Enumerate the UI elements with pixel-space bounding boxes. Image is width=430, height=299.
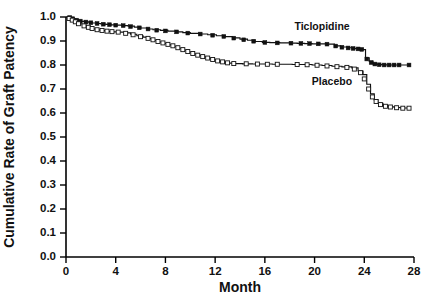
y-tick-label: 1.0 [40, 10, 56, 22]
censor-mark-filled [232, 36, 236, 40]
y-tick-label: 0.2 [40, 202, 56, 214]
censor-mark-filled [129, 25, 133, 29]
censor-mark-filled [89, 21, 93, 25]
censor-mark-open [383, 104, 387, 108]
censor-mark-open [166, 42, 170, 46]
censor-mark-open [110, 30, 114, 34]
censor-mark-filled [377, 63, 381, 67]
censor-mark-filled [222, 35, 226, 39]
censor-mark-filled [373, 62, 377, 66]
censor-mark-filled [101, 22, 105, 26]
censor-mark-open [395, 106, 399, 110]
x-tick-label: 4 [113, 265, 120, 277]
censor-mark-open [161, 41, 165, 45]
y-tick-label: 0.1 [40, 226, 57, 238]
y-tick-label: 0.3 [40, 178, 56, 190]
censor-mark-open [226, 61, 230, 65]
censor-mark-open [176, 46, 180, 50]
censor-mark-open [191, 51, 195, 55]
x-axis-ticks: 0481216202428 [63, 257, 421, 277]
censor-mark-open [374, 99, 378, 103]
censor-mark-filled [155, 28, 159, 32]
censor-mark-filled [275, 41, 279, 45]
y-tick-label: 0.9 [40, 34, 56, 46]
series-ticlopidine [66, 16, 411, 67]
censor-mark-open [335, 65, 339, 69]
censor-mark-filled [146, 27, 150, 31]
series-label-ticlopidine: Ticlopidine [294, 20, 349, 32]
censor-mark-open [116, 30, 120, 34]
censor-mark-filled [360, 48, 364, 52]
censor-mark-filled [365, 57, 369, 61]
censor-mark-filled [308, 42, 312, 46]
y-tick-label: 0.6 [40, 106, 56, 118]
censor-mark-open [181, 48, 185, 52]
censor-mark-filled [252, 39, 256, 43]
censor-mark-filled [242, 38, 246, 42]
censor-mark-open [82, 24, 86, 28]
y-axis-ticks: 0.00.10.20.30.40.50.60.70.80.91.0 [40, 10, 66, 262]
x-tick-label: 0 [63, 265, 69, 277]
survival-chart-figure: 0.00.10.20.30.40.50.60.70.80.91.0 048121… [0, 0, 430, 299]
x-tick-label: 24 [358, 265, 371, 277]
censor-mark-open [315, 63, 319, 67]
censor-mark-filled [387, 63, 391, 67]
censor-mark-filled [121, 24, 125, 28]
censor-mark-open [76, 22, 80, 26]
censor-mark-open [186, 50, 190, 54]
kaplan-meier-plot: 0.00.10.20.30.40.50.60.70.80.91.0 048121… [0, 0, 430, 299]
censor-mark-filled [211, 33, 215, 37]
censor-mark-filled [351, 47, 355, 51]
censor-mark-filled [114, 23, 118, 27]
x-tick-label: 20 [308, 265, 321, 277]
censor-mark-open [305, 63, 309, 67]
censor-mark-filled [164, 29, 168, 33]
censor-mark-open [401, 106, 405, 110]
censor-mark-filled [325, 42, 329, 46]
censor-mark-open [151, 38, 155, 42]
censor-mark-open [201, 55, 205, 59]
censor-mark-open [370, 95, 374, 99]
series-label-placebo: Placebo [312, 75, 352, 87]
censor-mark-open [124, 31, 128, 35]
censor-mark-open [295, 63, 299, 67]
censor-mark-filled [108, 23, 112, 27]
censor-mark-open [171, 44, 175, 48]
series-layer [66, 16, 411, 111]
censor-mark-open [367, 87, 371, 91]
censor-mark-filled [392, 63, 396, 67]
censor-mark-open [211, 57, 215, 61]
y-tick-label: 0.4 [40, 154, 57, 166]
x-tick-label: 12 [209, 265, 222, 277]
censor-mark-open [388, 105, 392, 109]
censor-mark-open [352, 67, 356, 71]
censor-mark-open [196, 53, 200, 57]
censor-mark-open [325, 64, 329, 68]
censor-mark-filled [186, 31, 190, 35]
censor-mark-open [139, 35, 143, 39]
x-tick-label: 8 [162, 265, 169, 277]
censor-mark-open [100, 28, 104, 32]
censor-mark-open [265, 62, 269, 66]
censor-mark-filled [340, 45, 344, 49]
censor-mark-filled [289, 41, 293, 45]
x-tick-label: 28 [408, 265, 421, 277]
censor-mark-filled [198, 32, 202, 36]
censor-mark-filled [397, 63, 401, 67]
censor-mark-filled [407, 63, 411, 67]
censor-mark-open [244, 62, 248, 66]
y-axis-title: Cumulative Rate of Graft Patency [1, 26, 17, 248]
censor-mark-open [362, 77, 366, 81]
censor-mark-open [275, 62, 279, 66]
y-tick-label: 0.8 [40, 58, 57, 70]
y-tick-label: 0.7 [40, 82, 56, 94]
x-tick-label: 16 [258, 265, 271, 277]
censor-mark-filled [382, 63, 386, 67]
censor-mark-filled [299, 42, 303, 46]
censor-mark-filled [346, 46, 350, 50]
censor-mark-open [105, 29, 109, 33]
censor-mark-open [146, 36, 150, 40]
censor-mark-filled [316, 42, 320, 46]
y-tick-label: 0.0 [40, 250, 56, 262]
censor-mark-open [359, 71, 363, 75]
